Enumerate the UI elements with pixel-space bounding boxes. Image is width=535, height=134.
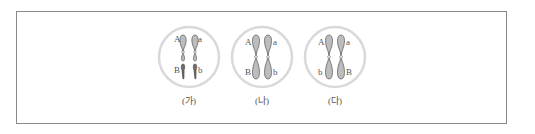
cell-caption: (가) [182,96,196,106]
gene-label: b [318,67,323,77]
gene-label: A [245,37,252,47]
genetics-diagram: A a B b (가) A a B b (나) A a b [0,0,535,134]
gene-label: b [198,65,203,75]
cell-ga: A a B b [159,27,219,87]
chromosome-A [180,35,186,61]
gene-label: B [245,67,251,77]
chromosome-right [338,35,345,79]
gene-label: a [273,37,277,47]
chromosome-left [253,35,260,79]
gene-label: a [198,34,202,44]
gene-label: a [346,37,350,47]
cell-da: A a b B [305,27,365,87]
chromosome-b [193,64,196,79]
chromosome-B [181,64,184,79]
cell-na: A a B b [232,27,292,87]
gene-label: A [318,37,325,47]
cell-caption: (나) [255,96,269,106]
chromosome-right [265,35,272,79]
gene-label: A [174,34,181,44]
gene-label: B [346,67,352,77]
cell-circle [159,27,219,87]
cell-caption: (다) [328,96,342,106]
gene-label: B [174,65,180,75]
gene-label: b [273,67,278,77]
cell-circle [232,27,292,87]
cell-circle [305,27,365,87]
chromosome-left [326,35,333,79]
